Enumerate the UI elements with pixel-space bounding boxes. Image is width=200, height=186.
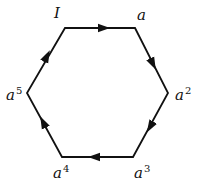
vertex-label-text: a [6, 86, 15, 104]
vertex-exponent: 2 [185, 85, 191, 96]
edge-arrow-a4-to-a5 [43, 122, 46, 128]
vertex-label-text: a [175, 86, 184, 104]
vertex-label-a4: a4 [53, 164, 69, 181]
cycle-diagram [0, 0, 200, 186]
vertex-exponent: 4 [63, 163, 69, 174]
vertex-label-text: a [137, 6, 146, 24]
vertex-label-a2: a2 [175, 86, 191, 103]
vertex-label-a3: a3 [134, 164, 150, 181]
vertex-exponent: 5 [16, 85, 22, 96]
vertex-label-a5: a5 [6, 86, 22, 103]
vertex-label-text: a [134, 164, 143, 182]
vertex-label-text: I [54, 4, 60, 22]
vertex-label-identity: I [54, 6, 60, 21]
vertex-label-text: a [53, 164, 62, 182]
vertex-exponent: 3 [144, 163, 150, 174]
vertex-label-a: a [137, 8, 146, 23]
hexagon-outline [27, 28, 168, 157]
